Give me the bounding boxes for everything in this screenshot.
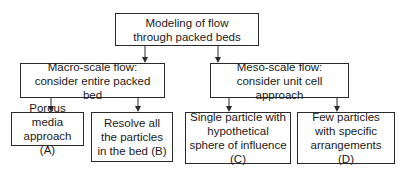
node-meso-scale: Meso-scale flow: consider unit cell appr… bbox=[210, 63, 349, 98]
node-a-label: Porous media approach (A) bbox=[15, 101, 80, 157]
node-b-label: Resolve all the particles in the bed (B) bbox=[95, 116, 169, 158]
node-d-few-particles: Few particles with specific arrangements… bbox=[297, 112, 395, 164]
node-a-porous-media: Porous media approach (A) bbox=[11, 112, 84, 146]
node-c-single-particle: Single particle with hypothetical sphere… bbox=[185, 112, 291, 164]
node-d-label: Few particles with specific arrangements… bbox=[301, 110, 391, 166]
node-b-resolve-particles: Resolve all the particles in the bed (B) bbox=[91, 112, 173, 162]
node-root-label: Modeling of flow through packed beds bbox=[130, 16, 244, 44]
node-macro-scale: Macro-scale flow: consider entire packed… bbox=[20, 63, 165, 98]
node-meso-label: Meso-scale flow: consider unit cell appr… bbox=[221, 60, 338, 102]
node-macro-label: Macro-scale flow: consider entire packed… bbox=[31, 60, 154, 102]
node-c-label: Single particle with hypothetical sphere… bbox=[189, 110, 287, 166]
node-root: Modeling of flow through packed beds bbox=[115, 13, 259, 46]
